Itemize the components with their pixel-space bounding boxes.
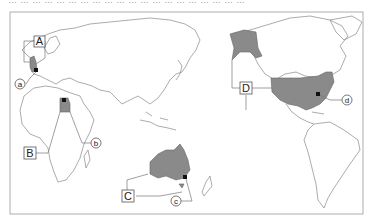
tasmania-highlight <box>179 184 184 188</box>
label-C: C <box>122 190 134 202</box>
world-map: A B C D a b c d <box>0 0 369 224</box>
alaska-highlight <box>230 30 262 60</box>
leader-c <box>181 179 192 201</box>
label-c: c <box>171 196 181 206</box>
australia-highlight <box>150 144 190 180</box>
map-frame <box>10 12 363 214</box>
south-america-outline <box>304 122 360 208</box>
svg-text:b: b <box>94 139 99 148</box>
indonesia-outline <box>140 112 176 130</box>
label-D: D <box>240 82 252 94</box>
label-d: d <box>342 95 352 105</box>
svg-text:d: d <box>345 96 349 105</box>
eurasia-outline <box>22 18 200 104</box>
svg-text:a: a <box>18 80 23 89</box>
leader-a <box>26 72 36 84</box>
svg-text:A: A <box>36 35 44 47</box>
label-A: A <box>34 35 45 47</box>
svg-text:c: c <box>174 197 178 206</box>
greenland-outline <box>330 16 362 40</box>
label-B: B <box>24 147 36 159</box>
leader-D <box>232 60 240 88</box>
leader-B <box>36 112 60 153</box>
madagascar-outline <box>84 150 90 168</box>
leader-b <box>70 112 92 143</box>
city-dot-c <box>183 175 187 179</box>
label-a: a <box>15 79 25 89</box>
new-zealand-outline <box>202 176 212 196</box>
leader-C2 <box>136 192 182 196</box>
africa-outline <box>20 86 94 182</box>
svg-text:B: B <box>26 147 33 159</box>
usa-highlight <box>271 72 334 110</box>
city-dot-b <box>62 98 66 102</box>
label-b: b <box>91 138 101 148</box>
japan-outline <box>176 60 182 80</box>
svg-text:D: D <box>242 82 250 94</box>
svg-text:C: C <box>124 190 132 202</box>
scandinavia-outline <box>44 36 60 54</box>
city-dot-a <box>34 68 38 72</box>
city-dot-d <box>316 92 320 96</box>
